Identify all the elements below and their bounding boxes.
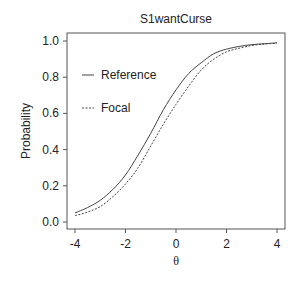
- x-tick-label: -4: [70, 237, 81, 251]
- y-tick-label: 1.0: [42, 34, 59, 48]
- chart-title: S1wantCurse: [140, 12, 212, 26]
- legend: Reference Focal: [82, 68, 157, 115]
- plot-frame: [67, 33, 285, 229]
- y-tick-label: 0.6: [42, 106, 59, 120]
- y-tick-label: 0.8: [42, 70, 59, 84]
- legend-label-reference: Reference: [101, 68, 157, 82]
- legend-label-focal: Focal: [101, 101, 130, 115]
- y-axis-label: Probability: [19, 103, 33, 159]
- x-axis-label: θ: [173, 254, 179, 268]
- x-tick-label: 2: [223, 237, 230, 251]
- y-axis: 0.00.20.40.60.81.0: [42, 34, 67, 229]
- y-tick-label: 0.4: [42, 143, 59, 157]
- chart: S1wantCurse 0.00.20.40.60.81.0 -4-2024 P…: [0, 0, 303, 285]
- x-axis: -4-2024: [70, 229, 281, 251]
- x-tick-label: -2: [120, 237, 131, 251]
- y-tick-label: 0.0: [42, 215, 59, 229]
- x-tick-label: 4: [274, 237, 281, 251]
- x-tick-label: 0: [173, 237, 180, 251]
- y-tick-label: 0.2: [42, 179, 59, 193]
